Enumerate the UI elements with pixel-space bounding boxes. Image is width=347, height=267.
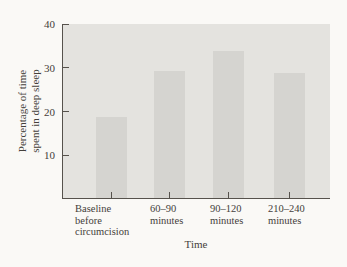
y-tick-30: [63, 67, 69, 68]
x-tick-3: [289, 192, 290, 198]
x-axis-label: Time: [62, 238, 330, 250]
x-category-label-3: 210–240minutes: [268, 203, 305, 226]
x-category-label-line: Baseline: [75, 203, 129, 215]
x-category-label-2: 90–120minutes: [210, 203, 243, 226]
bar-2: [213, 51, 244, 198]
x-category-label-line: circumcision: [75, 226, 129, 238]
plot-area: [62, 24, 330, 199]
y-tick-20: [63, 111, 69, 112]
bar-3: [274, 73, 305, 198]
x-category-label-line: minutes: [150, 215, 183, 227]
x-category-label-line: minutes: [210, 215, 243, 227]
bar-0: [96, 117, 127, 198]
bar-chart-figure: Percentage of time spent in deep sleep T…: [0, 0, 347, 267]
x-tick-2: [228, 192, 229, 198]
y-tick-40: [63, 24, 69, 25]
x-category-label-1: 60–90minutes: [150, 203, 183, 226]
x-tick-1: [169, 192, 170, 198]
x-category-label-line: 60–90: [150, 203, 183, 215]
y-tick-label-10: 10: [0, 149, 55, 161]
x-category-label-0: Baselinebeforecircumcision: [75, 203, 129, 238]
y-tick-label-20: 20: [0, 106, 55, 118]
x-category-label-line: minutes: [268, 215, 305, 227]
x-category-label-line: 90–120: [210, 203, 243, 215]
x-tick-0: [111, 192, 112, 198]
y-tick-label-40: 40: [0, 18, 55, 30]
bar-1: [154, 71, 185, 198]
x-category-label-line: 210–240: [268, 203, 305, 215]
y-tick-label-30: 30: [0, 62, 55, 74]
x-category-label-line: before: [75, 215, 129, 227]
y-tick-10: [63, 155, 69, 156]
